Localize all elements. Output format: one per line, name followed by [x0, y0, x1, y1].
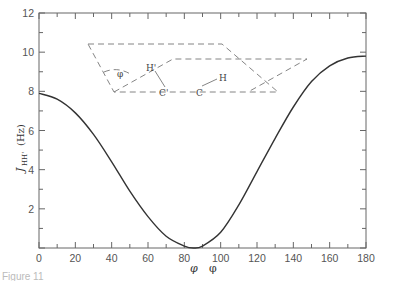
y-tick-label: 6: [28, 125, 34, 137]
x-tick-label: 140: [285, 252, 303, 264]
karplus-chart: 02040608010012014016018024681012 φ H' C'…: [0, 0, 402, 281]
y-tick-label: 4: [28, 164, 34, 176]
inset-cprime-label: C': [159, 88, 168, 98]
tick-labels: 02040608010012014016018024681012: [22, 7, 375, 264]
x-axis-title: φ: [190, 262, 198, 275]
x-tick-label: 160: [321, 252, 339, 264]
axis-ticks: [39, 13, 366, 248]
y-tick-label: 2: [28, 203, 34, 215]
plane-1: [88, 44, 278, 92]
y-tick-label: 8: [28, 85, 34, 97]
y-tick-label: 10: [22, 46, 34, 58]
y-axis-title: J HH' (Hz): [14, 124, 29, 174]
x-tick-label: 40: [106, 252, 118, 264]
plane-2: [114, 59, 307, 92]
plot-frame: [39, 13, 366, 248]
x-tick-label: 80: [178, 252, 190, 264]
bond-hprime-cprime: [155, 71, 165, 87]
x-axis-title-extra: φ: [209, 262, 217, 275]
bond-c-h: [202, 79, 217, 86]
y-axis-j: J: [14, 167, 27, 174]
inset-h-label: H: [219, 73, 227, 83]
inset-phi-label: φ: [117, 69, 123, 79]
bonds: [155, 71, 217, 87]
inset-c-label: C: [196, 88, 203, 98]
coupling-curve: [39, 56, 366, 248]
x-tick-label: 0: [36, 252, 42, 264]
dihedral-diagram: [88, 44, 307, 92]
x-tick-label: 120: [248, 252, 266, 264]
y-tick-label: 12: [22, 7, 34, 19]
figure-caption: Figure 11: [2, 271, 44, 281]
inset-hprime-label: H': [146, 63, 156, 73]
y-axis-sub: HH': [21, 152, 29, 166]
x-tick-label: 60: [142, 252, 154, 264]
y-axis-unit: (Hz): [15, 124, 26, 146]
x-tick-label: 180: [357, 252, 375, 264]
x-tick-label: 20: [69, 252, 81, 264]
